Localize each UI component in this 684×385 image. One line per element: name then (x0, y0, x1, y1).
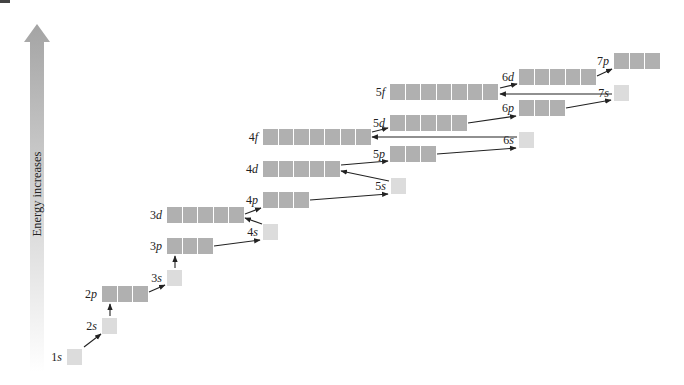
arrow-3d-to-4p (245, 208, 261, 214)
arrow-2p-to-3s (149, 285, 165, 292)
orbital-box (294, 129, 309, 145)
orbital-box (452, 84, 467, 100)
orbital-box (421, 84, 436, 100)
orbital-box (519, 100, 534, 116)
orbital-box (406, 146, 421, 162)
subshell-6d (519, 69, 596, 85)
orbital-box (519, 132, 534, 148)
orbital-energy-diagram: Energy increases 1s2s2p3s3p4s3d4p5s4d5p6… (0, 0, 684, 385)
subshell-letter: s (604, 86, 609, 100)
orbital-box (198, 207, 213, 223)
orbital-box (341, 129, 356, 145)
orbital-box (67, 349, 82, 365)
orbital-box (167, 270, 182, 286)
orbital-box (645, 53, 660, 69)
energy-axis-label: Energy increases (30, 152, 45, 237)
subshell-letter: p (156, 239, 162, 253)
subshell-letter: s (92, 319, 97, 333)
orbital-box (167, 207, 182, 223)
subshell-letter: d (156, 208, 162, 222)
orbital-box (356, 129, 371, 145)
subshell-4s (263, 224, 278, 240)
subshell-letter: d (379, 116, 385, 130)
orbital-box (133, 286, 148, 302)
subshell-label-3p: 3p (150, 240, 162, 252)
subshell-label-4s: 4s (247, 226, 258, 238)
subshell-letter: d (252, 162, 258, 176)
subshell-7p (614, 53, 660, 69)
arrow-4s-to-3d (245, 218, 262, 224)
orbital-box (263, 161, 278, 177)
orbital-box (167, 238, 182, 254)
subshell-4d (263, 161, 340, 177)
subshell-letter: s (253, 225, 258, 239)
subshell-label-5s: 5s (375, 180, 386, 192)
subshell-label-6d: 6d (502, 71, 514, 83)
subshell-5s (391, 178, 406, 194)
orbital-box (630, 53, 645, 69)
orbital-box (279, 129, 294, 145)
orbital-box (550, 100, 565, 116)
orbital-box (263, 129, 278, 145)
orbital-box (214, 207, 229, 223)
subshell-label-6s: 6s (503, 134, 514, 146)
orbital-box (391, 178, 406, 194)
orbital-box (483, 84, 498, 100)
subshell-6s (519, 132, 534, 148)
subshell-letter: p (603, 54, 609, 68)
subshell-3d (167, 207, 244, 223)
orbital-box (468, 84, 483, 100)
orbital-box (118, 286, 133, 302)
orbital-box (581, 69, 596, 85)
arrow-1s-to-2s (84, 334, 101, 347)
subshell-label-5f: 5f (376, 86, 385, 98)
orbital-box (310, 161, 325, 177)
orbital-box (263, 192, 278, 208)
subshell-letter: f (382, 85, 385, 99)
subshell-label-2s: 2s (86, 320, 97, 332)
orbital-box (263, 224, 278, 240)
orbital-box (183, 238, 198, 254)
subshell-label-3s: 3s (151, 272, 162, 284)
subshell-5d (390, 115, 467, 131)
orbital-box (390, 146, 405, 162)
subshell-label-4d: 4d (246, 163, 258, 175)
subshell-2p (102, 286, 148, 302)
orbital-box (535, 69, 550, 85)
subshell-label-6p: 6p (502, 102, 514, 114)
subshell-letter: p (252, 193, 258, 207)
orbital-box (310, 129, 325, 145)
orbital-box (452, 115, 467, 131)
subshell-letter: s (157, 271, 162, 285)
subshell-letter: s (381, 179, 386, 193)
orbital-box (550, 69, 565, 85)
subshell-letter: p (91, 287, 97, 301)
orbital-box (421, 146, 436, 162)
subshell-label-7s: 7s (598, 87, 609, 99)
subshell-label-2p: 2p (85, 288, 97, 300)
orbital-box (294, 161, 309, 177)
orbital-box (566, 69, 581, 85)
orbital-box (406, 84, 421, 100)
subshell-label-4p: 4p (246, 194, 258, 206)
subshell-label-4f: 4f (249, 131, 258, 143)
orbital-box (614, 85, 629, 101)
subshell-3p (167, 238, 213, 254)
subshell-label-3d: 3d (150, 209, 162, 221)
subshell-6p (519, 100, 565, 116)
subshell-letter: d (508, 70, 514, 84)
subshell-5p (390, 146, 436, 162)
orbital-box (535, 100, 550, 116)
subshell-label-5d: 5d (373, 117, 385, 129)
subshell-label-7p: 7p (597, 55, 609, 67)
orbital-box (519, 69, 534, 85)
orbital-box (437, 115, 452, 131)
orbital-box (102, 286, 117, 302)
orbital-box (294, 192, 309, 208)
subshell-5f (390, 84, 498, 100)
arrow-6d-to-7p (597, 69, 612, 76)
orbital-box (614, 53, 629, 69)
subshell-4f (263, 129, 371, 145)
orbital-box (279, 161, 294, 177)
subshell-3s (167, 270, 182, 286)
